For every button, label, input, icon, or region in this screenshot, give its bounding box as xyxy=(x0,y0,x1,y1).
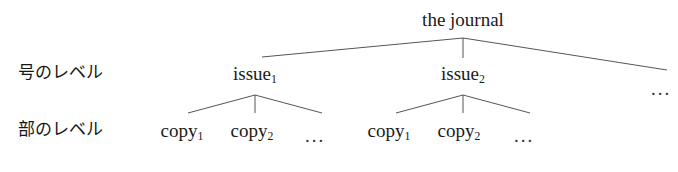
node-issue-2: issue2 xyxy=(441,64,485,83)
edge-root-to-issue-ellipsis xyxy=(463,38,667,70)
node-issue-1-copy-2-subscript: 2 xyxy=(268,130,274,143)
row-label-issue-level: 号のレベル xyxy=(18,64,103,81)
node-issue-2-copy-1-label: copy xyxy=(368,120,405,141)
ellipsis-issue-level: ... xyxy=(651,78,671,100)
node-issue-2-label: issue xyxy=(441,63,479,84)
journal-hierarchy-diagram: 号のレベル 部のレベル the journal issue1 issue2 co… xyxy=(0,0,678,172)
edge-issue-2-to-copy-ellipsis xyxy=(463,95,530,113)
node-issue-1-copy-1-subscript: 1 xyxy=(198,130,204,143)
edge-issue-1-to-copy-1 xyxy=(188,95,255,113)
node-issue-2-copy-1-subscript: 1 xyxy=(405,130,411,143)
node-issue-2-subscript: 2 xyxy=(479,73,485,86)
ellipsis-issue-1-copies: ... xyxy=(305,125,325,147)
node-issue-1-copy-2-label: copy xyxy=(231,120,268,141)
node-issue-2-copy-2: copy2 xyxy=(438,121,481,140)
node-issue-1-label: issue xyxy=(233,63,271,84)
edge-issue-2-to-copy-1 xyxy=(396,95,463,113)
node-issue-2-copy-1: copy1 xyxy=(368,121,411,140)
tree-edges xyxy=(0,0,678,172)
node-issue-1-copy-1: copy1 xyxy=(161,121,204,140)
node-issue-1: issue1 xyxy=(233,64,277,83)
node-issue-2-copy-2-label: copy xyxy=(438,120,475,141)
node-issue-2-copy-2-subscript: 2 xyxy=(475,130,481,143)
node-the-journal: the journal xyxy=(422,10,504,29)
edge-issue-1-to-copy-ellipsis xyxy=(255,95,322,113)
node-issue-1-copy-1-label: copy xyxy=(161,120,198,141)
row-label-copy-level: 部のレベル xyxy=(18,121,103,138)
ellipsis-issue-2-copies: ... xyxy=(514,125,534,147)
node-issue-1-subscript: 1 xyxy=(271,73,277,86)
edge-root-to-issue-1 xyxy=(262,38,463,57)
node-issue-1-copy-2: copy2 xyxy=(231,121,274,140)
